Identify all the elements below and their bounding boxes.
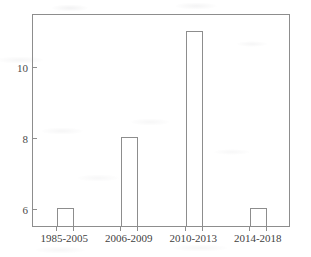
y-tick-mark-6: 6 — [32, 209, 37, 210]
bar-2010-2013[interactable] — [186, 31, 203, 226]
bar-2006-2009[interactable] — [121, 137, 138, 226]
bar-chart-figure: 1086 1985-20052006-20092010-20132014-201… — [0, 0, 311, 257]
y-tick-mark-8: 8 — [32, 138, 37, 139]
x-tick-mark-1985-2005-left — [56, 227, 57, 231]
x-tick-label-2014-2018: 2014-2018 — [234, 233, 282, 244]
x-tick-mark-2014-2018-left — [249, 227, 250, 231]
plot-frame — [32, 14, 290, 227]
x-tick-label-2010-2013: 2010-2013 — [169, 233, 217, 244]
x-tick-mark-2014-2018-right — [266, 227, 267, 231]
y-tick-label-10: 10 — [17, 63, 28, 74]
bars-layer — [33, 15, 289, 226]
y-tick-label-8: 8 — [23, 134, 29, 145]
x-tick-mark-1985-2005-right — [73, 227, 74, 231]
x-tick-mark-2010-2013-left — [185, 227, 186, 231]
bar-1985-2005[interactable] — [57, 208, 74, 226]
x-tick-mark-2010-2013-right — [202, 227, 203, 231]
x-tick-label-1985-2005: 1985-2005 — [40, 233, 88, 244]
y-tick-label-6: 6 — [23, 205, 29, 216]
y-tick-mark-10: 10 — [32, 67, 37, 68]
x-tick-mark-2006-2009-left — [120, 227, 121, 231]
x-tick-mark-2006-2009-right — [137, 227, 138, 231]
bar-2014-2018[interactable] — [250, 208, 267, 226]
x-tick-label-2006-2009: 2006-2009 — [105, 233, 153, 244]
